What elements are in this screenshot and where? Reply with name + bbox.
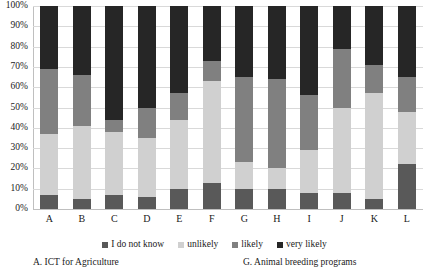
- bar-column: [40, 6, 58, 209]
- legend-label: likely: [241, 240, 263, 250]
- legend-item: very likely: [277, 240, 327, 250]
- bar-column: [365, 6, 383, 209]
- bar-stack: [105, 6, 123, 209]
- bar-column: [268, 6, 286, 209]
- bar-segment: [235, 77, 253, 162]
- bar-segment: [398, 164, 416, 209]
- bar-segment: [105, 195, 123, 209]
- y-axis-label: 100%: [6, 1, 28, 11]
- bar-stack: [398, 6, 416, 209]
- bar-stack: [365, 6, 383, 209]
- legend-label: very likely: [286, 240, 327, 250]
- x-axis-label: E: [163, 212, 196, 226]
- x-axis-label: B: [66, 212, 99, 226]
- bar-stack: [333, 6, 351, 209]
- x-axis-label: H: [261, 212, 294, 226]
- bar-column: [138, 6, 156, 209]
- bar-segment: [398, 77, 416, 112]
- bar-segment: [203, 81, 221, 183]
- bar-segment: [300, 6, 318, 95]
- y-axis-label: 20%: [11, 164, 28, 174]
- legend-swatch-icon: [232, 242, 238, 248]
- bar-segment: [398, 6, 416, 77]
- bar-segment: [235, 6, 253, 77]
- y-axis-label: 70%: [11, 62, 28, 72]
- bar-stack: [268, 6, 286, 209]
- bar-column: [170, 6, 188, 209]
- bar-segment: [268, 168, 286, 188]
- footnote-left: A. ICT for Agriculture: [33, 256, 119, 268]
- bar-segment: [203, 6, 221, 61]
- bar-stack: [235, 6, 253, 209]
- bar-series-group: [33, 6, 423, 209]
- bar-segment: [268, 79, 286, 168]
- y-axis-label: 80%: [11, 42, 28, 52]
- bar-column: [398, 6, 416, 209]
- x-axis-label: L: [391, 212, 424, 226]
- bar-segment: [300, 150, 318, 193]
- bar-stack: [73, 6, 91, 209]
- bar-segment: [235, 189, 253, 209]
- x-axis-label: I: [293, 212, 326, 226]
- bar-segment: [268, 6, 286, 79]
- bar-segment: [268, 189, 286, 209]
- bar-segment: [40, 69, 58, 134]
- y-axis-label: 0%: [15, 204, 28, 214]
- legend-label: unlikely: [187, 240, 218, 250]
- legend-item: unlikely: [178, 240, 218, 250]
- bar-column: [333, 6, 351, 209]
- y-axis-label: 90%: [11, 22, 28, 32]
- bar-stack: [203, 6, 221, 209]
- bar-column: [300, 6, 318, 209]
- bar-column: [203, 6, 221, 209]
- bar-segment: [170, 93, 188, 119]
- x-axis-label: C: [98, 212, 131, 226]
- bar-segment: [365, 6, 383, 65]
- bar-segment: [105, 6, 123, 120]
- bar-stack: [300, 6, 318, 209]
- y-axis-label: 40%: [11, 123, 28, 133]
- chart-legend: I do not knowunlikelylikelyvery likely: [0, 238, 429, 252]
- y-axis-label: 30%: [11, 143, 28, 153]
- x-axis-label: K: [358, 212, 391, 226]
- bar-segment: [73, 199, 91, 209]
- bar-segment: [398, 112, 416, 165]
- bar-stack: [170, 6, 188, 209]
- bar-segment: [333, 193, 351, 209]
- bar-segment: [40, 195, 58, 209]
- legend-swatch-icon: [277, 242, 283, 248]
- bar-segment: [138, 6, 156, 108]
- bar-segment: [138, 197, 156, 209]
- bar-segment: [40, 134, 58, 195]
- bar-segment: [138, 138, 156, 197]
- legend-item: likely: [232, 240, 263, 250]
- bar-segment: [170, 189, 188, 209]
- bar-column: [105, 6, 123, 209]
- x-axis-label: F: [196, 212, 229, 226]
- bar-segment: [333, 108, 351, 193]
- y-axis-tick-labels: 0%10%20%30%40%50%60%70%80%90%100%: [0, 0, 31, 215]
- bar-column: [235, 6, 253, 209]
- legend-swatch-icon: [102, 242, 108, 248]
- bar-segment: [40, 6, 58, 69]
- bar-segment: [203, 61, 221, 81]
- bar-segment: [333, 49, 351, 108]
- bar-segment: [170, 6, 188, 93]
- bar-segment: [365, 93, 383, 199]
- bar-stack: [40, 6, 58, 209]
- y-axis-label: 50%: [11, 103, 28, 113]
- gridline: [33, 209, 423, 210]
- footnote-group: A. ICT for Agriculture G. Animal breedin…: [0, 256, 429, 268]
- bar-segment: [105, 120, 123, 132]
- bar-segment: [73, 6, 91, 75]
- bar-segment: [300, 95, 318, 150]
- x-axis-label: G: [228, 212, 261, 226]
- x-axis-label: J: [326, 212, 359, 226]
- x-axis-label: A: [33, 212, 66, 226]
- bar-segment: [73, 75, 91, 126]
- x-axis-tick-labels: ABCDEFGHIJKL: [33, 212, 423, 228]
- footnote-right: G. Animal breeding programs: [243, 256, 356, 268]
- bar-segment: [333, 6, 351, 49]
- bar-segment: [105, 132, 123, 195]
- y-axis-label: 10%: [11, 184, 28, 194]
